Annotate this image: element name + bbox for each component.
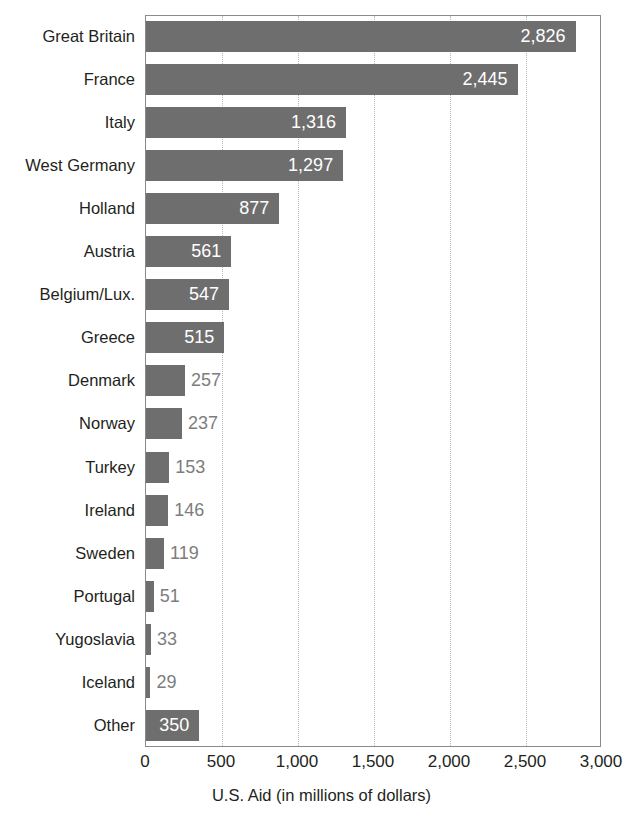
- bar: [146, 538, 164, 569]
- bar-row: Denmark257: [0, 365, 643, 396]
- bar-row: West Germany1,297: [0, 150, 643, 181]
- category-label: Italy: [105, 107, 135, 138]
- category-label: Iceland: [82, 667, 135, 698]
- x-tick-label: 1,500: [352, 752, 395, 772]
- bar-value-label: 119: [170, 538, 199, 569]
- category-label: Portugal: [74, 581, 135, 612]
- bar-row: Great Britain2,826: [0, 21, 643, 52]
- bar-row: Norway237: [0, 408, 643, 439]
- category-label: Yugoslavia: [55, 624, 135, 655]
- bar-value-label: 350: [146, 710, 189, 741]
- bar-value-label: 547: [146, 279, 219, 310]
- bar: [146, 667, 150, 698]
- bar-chart: Great Britain2,826France2,445Italy1,316W…: [0, 0, 643, 823]
- bar: [146, 581, 154, 612]
- x-tick-label: 500: [207, 752, 235, 772]
- bar-row: Yugoslavia33: [0, 624, 643, 655]
- category-label: West Germany: [25, 150, 135, 181]
- bar-value-label: 515: [146, 322, 214, 353]
- category-label: Ireland: [85, 495, 135, 526]
- bar-value-label: 51: [160, 581, 180, 612]
- bar: [146, 408, 182, 439]
- bar-row: Belgium/Lux.547: [0, 279, 643, 310]
- bar-value-label: 29: [156, 667, 176, 698]
- category-label: France: [84, 64, 135, 95]
- x-axis-tick-labels: 05001,0001,5002,0002,5003,000: [0, 752, 643, 778]
- category-label: Austria: [84, 236, 135, 267]
- bar: [146, 365, 185, 396]
- bar-row: Portugal51: [0, 581, 643, 612]
- category-label: Denmark: [68, 365, 135, 396]
- bar-row: Iceland29: [0, 667, 643, 698]
- category-label: Great Britain: [42, 21, 135, 52]
- bar: [146, 624, 151, 655]
- bar-value-label: 2,445: [146, 64, 508, 95]
- x-tick-label: 3,000: [580, 752, 623, 772]
- bar-value-label: 146: [174, 495, 204, 526]
- bar-row: Austria561: [0, 236, 643, 267]
- x-tick-label: 2,000: [428, 752, 471, 772]
- bar-value-label: 33: [157, 624, 177, 655]
- bar-row: Holland877: [0, 193, 643, 224]
- bar-row: Other350: [0, 710, 643, 741]
- bar-value-label: 2,826: [146, 21, 566, 52]
- bar-row: Turkey153: [0, 452, 643, 483]
- bar: [146, 495, 168, 526]
- bar-value-label: 153: [175, 452, 205, 483]
- bar-value-label: 237: [188, 408, 218, 439]
- bar-row: France2,445: [0, 64, 643, 95]
- category-label: Belgium/Lux.: [40, 279, 135, 310]
- bar-row: Italy1,316: [0, 107, 643, 138]
- category-label: Norway: [79, 408, 135, 439]
- category-label: Turkey: [85, 452, 135, 483]
- x-tick-label: 0: [140, 752, 149, 772]
- category-label: Greece: [81, 322, 135, 353]
- category-label: Other: [94, 710, 135, 741]
- bar-row: Ireland146: [0, 495, 643, 526]
- bar-value-label: 1,316: [146, 107, 336, 138]
- x-axis-title: U.S. Aid (in millions of dollars): [0, 786, 643, 805]
- category-label: Sweden: [75, 538, 135, 569]
- bar-rows: Great Britain2,826France2,445Italy1,316W…: [0, 0, 643, 823]
- bar-value-label: 561: [146, 236, 221, 267]
- x-tick-label: 2,500: [504, 752, 547, 772]
- bar: [146, 452, 169, 483]
- bar-value-label: 877: [146, 193, 269, 224]
- x-tick-label: 1,000: [276, 752, 319, 772]
- bar-row: Greece515: [0, 322, 643, 353]
- category-label: Holland: [79, 193, 135, 224]
- bar-row: Sweden119: [0, 538, 643, 569]
- bar-value-label: 257: [191, 365, 221, 396]
- bar-value-label: 1,297: [146, 150, 333, 181]
